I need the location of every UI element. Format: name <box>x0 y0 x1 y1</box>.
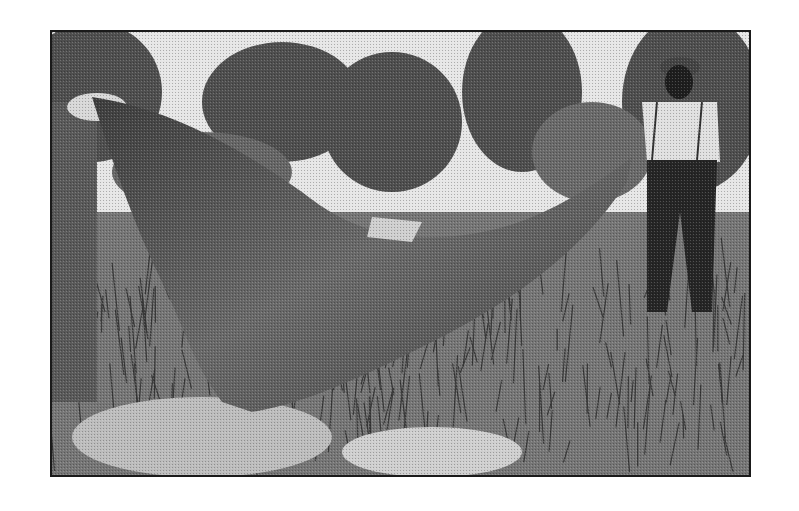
halftone-grain <box>52 32 749 475</box>
photo-frame <box>50 30 751 477</box>
photograph <box>52 32 749 475</box>
